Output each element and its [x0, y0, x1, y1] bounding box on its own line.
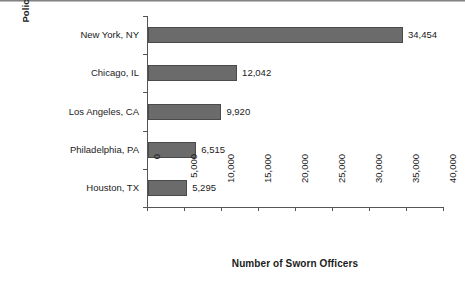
x-axis-title: Number of Sworn Officers: [147, 258, 443, 269]
bar: [148, 65, 237, 81]
y-axis-tick: [143, 169, 147, 170]
bar-value-label: 34,454: [408, 27, 437, 43]
x-tick-label: 10,000: [225, 154, 236, 214]
x-axis-tick: [332, 207, 333, 211]
x-tick-label: 40,000: [447, 154, 458, 214]
bar: [148, 27, 403, 43]
x-axis-tick: [258, 207, 259, 211]
x-axis-tick: [443, 207, 444, 211]
x-tick-label: 20,000: [299, 154, 310, 214]
category-label: Philadelphia, PA: [7, 142, 139, 158]
x-tick-label: 0: [151, 154, 162, 214]
category-label: Los Angeles, CA: [7, 104, 139, 120]
y-axis-tick: [143, 92, 147, 93]
bar: [148, 104, 221, 120]
x-tick-label: 25,000: [336, 154, 347, 214]
bar-value-label: 12,042: [242, 65, 271, 81]
y-axis-tick: [143, 131, 147, 132]
y-axis-tick: [143, 16, 147, 17]
bar-value-label: 6,515: [201, 142, 225, 158]
category-label: New York, NY: [7, 27, 139, 43]
x-axis-tick: [221, 207, 222, 211]
x-tick-label: 35,000: [410, 154, 421, 214]
category-label: Chicago, IL: [7, 65, 139, 81]
bar-chart: Police Department 34,45412,0429,9206,515…: [0, 0, 465, 285]
bar-value-label: 9,920: [226, 104, 250, 120]
plot-area: 34,45412,0429,9206,5155,295 New York, NY…: [147, 16, 443, 207]
x-axis-tick: [184, 207, 185, 211]
x-axis-tick: [369, 207, 370, 211]
x-axis-tick: [147, 207, 148, 211]
x-tick-label: 5,000: [188, 154, 199, 214]
y-axis-tick: [143, 54, 147, 55]
x-tick-label: 15,000: [262, 154, 273, 214]
x-axis-tick: [295, 207, 296, 211]
x-tick-label: 30,000: [373, 154, 384, 214]
x-axis-tick: [406, 207, 407, 211]
category-label: Houston, TX: [7, 180, 139, 196]
scan-edge-line: [0, 0, 465, 2]
